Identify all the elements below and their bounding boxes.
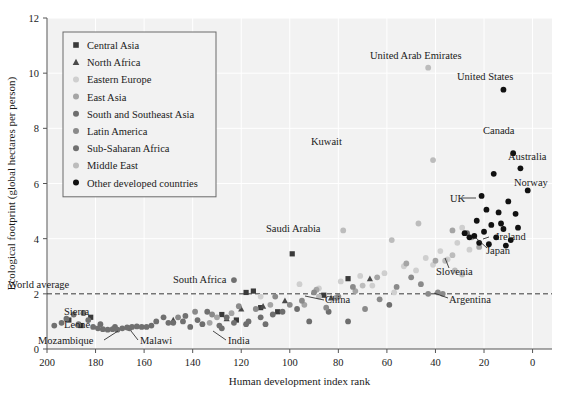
annotation-label: Japan xyxy=(486,245,511,256)
annotation-label: Australia xyxy=(508,151,547,162)
data-point xyxy=(518,165,524,171)
data-point xyxy=(224,314,230,320)
y-tick-label: 8 xyxy=(34,123,39,134)
data-point xyxy=(386,302,392,308)
data-point xyxy=(437,248,443,254)
data-point xyxy=(394,284,400,290)
data-point xyxy=(209,312,215,318)
data-point xyxy=(231,277,237,283)
x-tick-label: 180 xyxy=(88,357,104,368)
data-point xyxy=(425,291,431,297)
data-point xyxy=(153,319,159,325)
annotation-label: Saudi Arabia xyxy=(266,223,321,234)
legend-item-label: Middle East xyxy=(87,160,138,171)
data-point xyxy=(496,210,502,216)
legend-item-other-developed-countries[interactable]: Other developed countries xyxy=(73,178,198,189)
data-point xyxy=(267,302,273,308)
data-point xyxy=(144,324,150,330)
legend-item-south-and-southeast-asia[interactable]: South and Southeast Asia xyxy=(73,109,194,120)
data-point xyxy=(491,171,497,177)
data-point xyxy=(345,319,351,325)
data-point xyxy=(498,221,504,227)
data-point xyxy=(488,222,494,228)
legend-item-label: East Asia xyxy=(87,92,127,103)
annotation-label: South Africa xyxy=(173,274,227,285)
data-point xyxy=(297,281,303,287)
data-point xyxy=(340,227,346,233)
data-point xyxy=(216,323,222,329)
data-point xyxy=(350,284,356,290)
data-point xyxy=(290,251,295,256)
data-point xyxy=(474,218,480,224)
data-point xyxy=(374,274,380,280)
y-axis-title: Ecological footprint (global hectares pe… xyxy=(5,76,18,290)
data-point xyxy=(425,65,431,71)
data-point xyxy=(251,288,256,293)
y-tick-label: 2 xyxy=(34,289,39,300)
x-tick-label: 40 xyxy=(430,357,441,368)
data-point xyxy=(338,279,344,285)
legend-item-label: Eastern Europe xyxy=(87,74,152,85)
data-point xyxy=(416,221,422,227)
data-point xyxy=(51,323,57,329)
data-point xyxy=(481,229,487,235)
annotation-label: Sierra xyxy=(64,306,89,317)
data-point xyxy=(204,309,210,315)
y-tick-label: 10 xyxy=(29,68,40,79)
data-point xyxy=(192,309,198,315)
data-point xyxy=(263,321,269,327)
data-point xyxy=(236,303,242,309)
data-point xyxy=(180,319,186,325)
annotation-label: India xyxy=(228,335,250,346)
data-point xyxy=(229,310,235,316)
data-point xyxy=(430,157,436,163)
data-point xyxy=(258,314,264,320)
data-point xyxy=(450,252,456,258)
x-tick-label: 80 xyxy=(333,357,344,368)
x-tick-label: 140 xyxy=(185,357,201,368)
data-point xyxy=(462,230,468,236)
legend: Central AsiaNorth AfricaEastern EuropeEa… xyxy=(63,32,216,197)
annotation-label: Kuwait xyxy=(311,136,342,147)
data-point xyxy=(423,255,429,261)
x-tick-label: 200 xyxy=(39,357,55,368)
data-point xyxy=(525,187,531,193)
data-point xyxy=(501,87,507,93)
data-point xyxy=(243,290,248,295)
annotation-label: World average xyxy=(8,279,70,290)
data-point xyxy=(513,211,519,217)
data-point xyxy=(214,314,220,320)
data-point xyxy=(408,274,414,280)
data-point xyxy=(182,313,188,319)
annotation-label: Slovenia xyxy=(436,266,473,277)
x-tick-label: 60 xyxy=(382,357,393,368)
legend-item-sub-saharan-africa[interactable]: Sub-Saharan Africa xyxy=(73,143,170,154)
legend-item-label: Other developed countries xyxy=(87,178,198,189)
data-point xyxy=(389,237,395,243)
data-point xyxy=(258,294,264,300)
annotation-label: United Arab Emirates xyxy=(370,50,462,61)
data-point xyxy=(287,302,293,308)
data-point xyxy=(345,276,350,281)
annotation-label: China xyxy=(325,294,350,305)
legend-marker-circle-icon xyxy=(73,180,79,186)
y-tick-label: 6 xyxy=(34,179,39,190)
x-axis-title: Human development index rank xyxy=(229,375,371,387)
x-tick-label: 20 xyxy=(479,357,490,368)
data-point xyxy=(119,325,125,331)
annotation-label: Mozambique xyxy=(38,335,94,346)
data-point xyxy=(246,319,252,325)
x-tick-label: 100 xyxy=(282,357,298,368)
legend-marker-circle-icon xyxy=(73,76,79,82)
annotation-label: Ireland xyxy=(496,231,526,242)
data-point xyxy=(459,225,465,231)
data-point xyxy=(270,312,276,318)
legend-marker-circle-icon xyxy=(73,145,79,151)
annotation-label: Norway xyxy=(514,177,549,188)
data-point xyxy=(454,240,460,246)
x-tick-label: 120 xyxy=(233,357,249,368)
x-tick-label: 0 xyxy=(530,357,535,368)
data-point xyxy=(219,312,224,317)
data-point xyxy=(272,294,278,300)
data-point xyxy=(165,320,171,326)
